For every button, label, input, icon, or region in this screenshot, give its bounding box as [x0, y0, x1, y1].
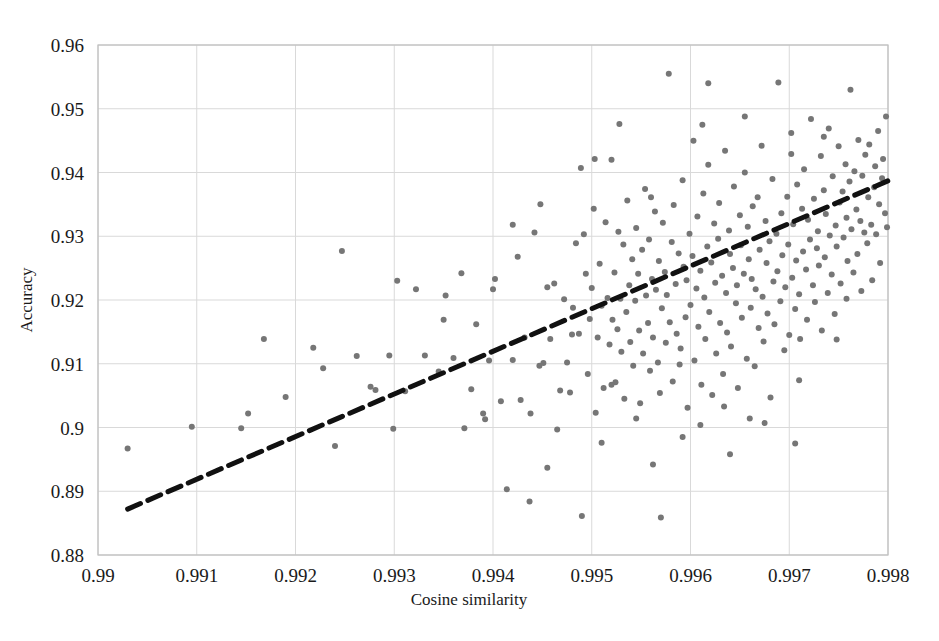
x-tick-label: 0.997	[768, 565, 811, 586]
figure-background	[0, 0, 939, 641]
x-tick-label: 0.995	[570, 565, 613, 586]
x-tick-label: 0.998	[867, 565, 910, 586]
x-axis-title: Cosine similarity	[411, 590, 528, 609]
x-tick-label: 0.996	[669, 565, 712, 586]
x-axis-tick-labels: 0.990.9910.9920.9930.9940.9950.9960.9970…	[81, 565, 909, 586]
y-tick-label: 0.94	[51, 163, 85, 184]
y-tick-label: 0.9	[60, 418, 84, 439]
y-tick-label: 0.96	[51, 35, 84, 56]
x-tick-label: 0.991	[175, 565, 218, 586]
x-tick-label: 0.994	[472, 565, 515, 586]
x-tick-label: 0.99	[81, 565, 114, 586]
plot-canvas: 0.990.9910.9920.9930.9940.9950.9960.9970…	[0, 0, 939, 641]
y-tick-label: 0.92	[51, 290, 84, 311]
y-axis-title: Accuracy	[17, 267, 36, 333]
y-tick-label: 0.95	[51, 99, 84, 120]
y-axis-tick-labels: 0.880.890.90.910.920.930.940.950.96	[51, 35, 85, 566]
y-tick-label: 0.93	[51, 226, 84, 247]
x-tick-label: 0.992	[274, 565, 317, 586]
x-tick-label: 0.993	[373, 565, 416, 586]
scatter-chart-figure: 0.990.9910.9920.9930.9940.9950.9960.9970…	[0, 0, 939, 641]
y-tick-label: 0.91	[51, 354, 84, 375]
y-tick-label: 0.88	[51, 545, 84, 566]
y-tick-label: 0.89	[51, 481, 84, 502]
